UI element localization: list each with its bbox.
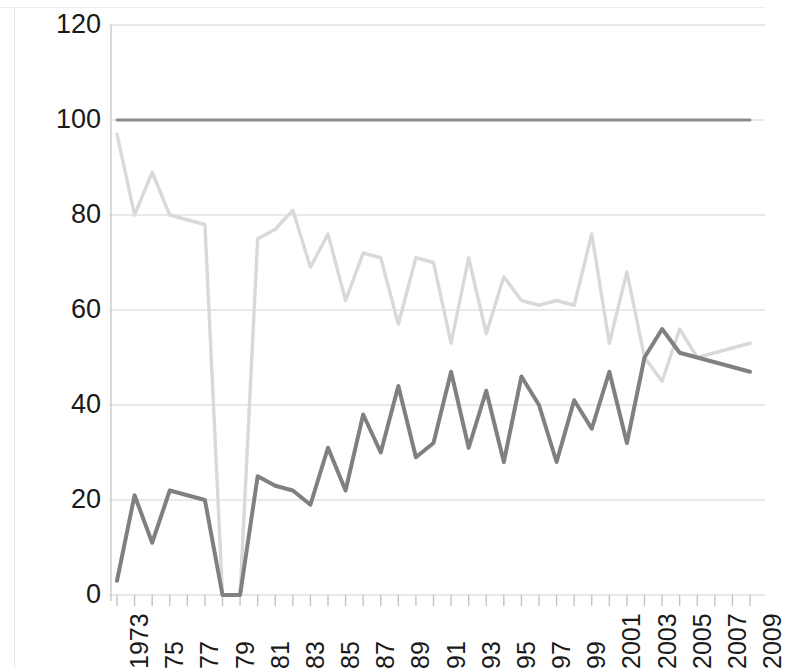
- x-tick-label-81: 81: [268, 641, 293, 669]
- x-axis-ticks: [117, 595, 750, 606]
- x-tick-label-93: 93: [479, 641, 504, 669]
- y-tick-label-20: 20: [21, 486, 101, 513]
- y-tick-label-120: 120: [21, 11, 101, 38]
- x-tick-label-2005: 2005: [690, 613, 715, 669]
- x-tick-label-87: 87: [373, 641, 398, 669]
- x-tick-label-2003: 2003: [655, 613, 680, 669]
- x-tick-label-83: 83: [303, 641, 328, 669]
- x-tick-label-2007: 2007: [725, 613, 750, 669]
- x-tick-label-2001: 2001: [619, 613, 644, 669]
- x-tick-label-2009: 2009: [760, 613, 785, 669]
- y-tick-label-100: 100: [21, 106, 101, 133]
- y-tick-label-80: 80: [21, 201, 101, 228]
- x-tick-label-95: 95: [514, 641, 539, 669]
- x-tick-label-75: 75: [162, 641, 187, 669]
- x-tick-label-97: 97: [549, 641, 574, 669]
- x-tick-label-1973: 1973: [127, 613, 152, 669]
- y-tick-label-40: 40: [21, 391, 101, 418]
- x-tick-label-77: 77: [197, 641, 222, 669]
- x-tick-label-89: 89: [408, 641, 433, 669]
- x-tick-label-99: 99: [584, 641, 609, 669]
- series-line-light-series: [117, 134, 750, 595]
- data-series: [117, 120, 750, 595]
- x-tick-label-91: 91: [444, 641, 469, 669]
- y-tick-label-0: 0: [21, 581, 101, 608]
- y-tick-label-60: 60: [21, 296, 101, 323]
- x-tick-label-85: 85: [338, 641, 363, 669]
- x-tick-label-79: 79: [233, 641, 258, 669]
